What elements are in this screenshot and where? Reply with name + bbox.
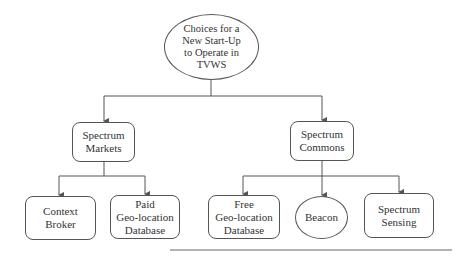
spectrum-markets-label: Spectrum Markets (82, 129, 124, 155)
beacon-node: Beacon (295, 196, 348, 239)
paid-geolocation-database-label: Paid Geo-location Database (116, 198, 173, 237)
spectrum-commons-label: Spectrum Commons (299, 128, 344, 154)
spectrum-markets-node: Spectrum Markets (72, 122, 135, 162)
context-broker-label: Context Broker (43, 205, 78, 231)
root-node: Choices for a New Start-Up to Operate in… (164, 14, 259, 80)
spectrum-commons-node: Spectrum Commons (290, 121, 354, 161)
paid-geolocation-database-node: Paid Geo-location Database (110, 195, 180, 239)
spectrum-sensing-label: Spectrum Sensing (378, 203, 420, 229)
free-geolocation-database-node: Free Geo-location Database (208, 195, 280, 239)
free-geolocation-database-label: Free Geo-location Database (215, 198, 272, 237)
spectrum-sensing-node: Spectrum Sensing (364, 193, 434, 238)
context-broker-node: Context Broker (25, 196, 96, 240)
beacon-label: Beacon (305, 211, 338, 224)
root-label: Choices for a New Start-Up to Operate in… (182, 23, 241, 71)
